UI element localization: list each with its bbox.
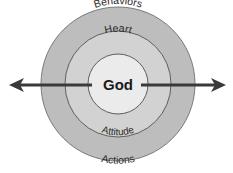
- concentric-circles-diagram: Behaviors Heart God Attitude Actions: [0, 0, 233, 173]
- label-actions: Actions: [101, 152, 136, 166]
- label-god: God: [103, 76, 133, 93]
